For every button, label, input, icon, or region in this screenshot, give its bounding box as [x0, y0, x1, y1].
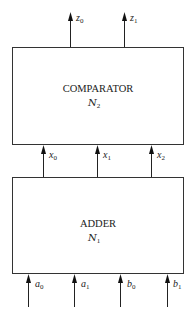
comparator-title: COMPARATOR: [63, 83, 134, 94]
arrow-up-icon: [149, 145, 154, 154]
arrow-up-icon: [68, 12, 73, 21]
signal-label: x1: [102, 149, 111, 162]
adder-block: ADDER N1: [13, 178, 184, 274]
signal-label: x0: [48, 149, 57, 162]
signal-x1: x1: [95, 145, 111, 177]
arrow-up-icon: [26, 274, 31, 283]
signal-label: x2: [156, 149, 165, 162]
output-label: z0: [75, 12, 84, 25]
comparator-box: [13, 48, 184, 145]
arrow-up-icon: [72, 274, 77, 283]
arrow-up-icon: [95, 145, 100, 154]
input-b0: b0: [118, 274, 136, 307]
input-b1: b1: [165, 274, 182, 307]
input-a1: a1: [72, 274, 90, 307]
adder-title: ADDER: [80, 218, 116, 229]
arrow-up-icon: [122, 12, 127, 21]
signal-x0: x0: [41, 145, 57, 177]
output-z1: z1: [122, 12, 138, 47]
input-label: a0: [35, 278, 44, 291]
input-label: b1: [173, 278, 182, 291]
input-label: b0: [127, 278, 136, 291]
input-a0: a0: [26, 274, 44, 307]
signal-x2: x2: [149, 145, 165, 177]
arrow-up-icon: [165, 274, 170, 283]
input-label: a1: [81, 278, 90, 291]
arrow-up-icon: [41, 145, 46, 154]
output-z0: z0: [68, 12, 84, 47]
arrow-up-icon: [118, 274, 123, 283]
block-diagram: COMPARATOR N2 z0 z1 x0 x1 x2 ADDER N1: [0, 0, 196, 320]
output-label: z1: [129, 12, 138, 25]
comparator-block: COMPARATOR N2: [13, 48, 184, 145]
